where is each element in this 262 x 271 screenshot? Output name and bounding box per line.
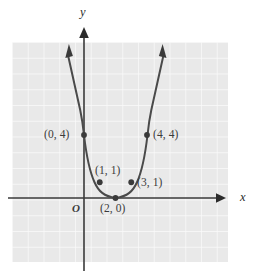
point-label-0-4: (0, 4) — [44, 129, 70, 141]
data-point-0-4 — [81, 132, 87, 138]
origin-label: O — [72, 203, 80, 214]
y-axis-label: y — [80, 6, 86, 19]
data-point-3-1 — [128, 179, 134, 185]
data-point-4-4 — [144, 132, 150, 138]
point-label-4-4: (4, 4) — [153, 129, 179, 141]
x-axis-label: x — [240, 191, 246, 204]
point-label-2-0: (2, 0) — [100, 203, 126, 215]
point-label-3-1: (3, 1) — [137, 177, 163, 189]
parabola-figure: (0, 4) (1, 1) (2, 0) (3, 1) (4, 4) O x y — [0, 0, 262, 271]
data-point-1-1 — [97, 179, 103, 185]
curve-right-arrowhead — [159, 44, 167, 58]
curve-layer — [0, 0, 262, 271]
data-point-2-0 — [113, 195, 119, 201]
point-label-1-1: (1, 1) — [95, 165, 121, 177]
curve-left-arrowhead — [65, 44, 73, 58]
